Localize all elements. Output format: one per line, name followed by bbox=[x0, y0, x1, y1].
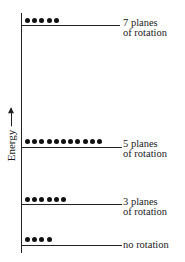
particle-dot bbox=[39, 139, 44, 144]
particle-dot bbox=[32, 139, 37, 144]
particle-dot bbox=[54, 139, 59, 144]
label-3-planes: 3 planes of rotation bbox=[123, 197, 167, 217]
particle-dot bbox=[25, 237, 30, 242]
particle-dot bbox=[90, 139, 95, 144]
label-no-rotation: no rotation bbox=[123, 240, 169, 250]
energy-axis-label: Energy bbox=[5, 109, 17, 162]
energy-level-line-7-planes bbox=[21, 25, 120, 26]
energy-label-text: Energy bbox=[5, 130, 17, 162]
particle-dot bbox=[32, 197, 37, 202]
label-line1: no rotation bbox=[123, 240, 169, 250]
particle-dot bbox=[47, 18, 52, 23]
label-5-planes: 5 planes of rotation bbox=[123, 139, 167, 159]
particle-dot bbox=[39, 197, 44, 202]
dots-5-planes bbox=[25, 139, 102, 144]
label-7-planes: 7 planes of rotation bbox=[123, 18, 167, 38]
dots-7-planes bbox=[25, 18, 59, 23]
label-line2: of rotation bbox=[123, 149, 167, 159]
particle-dot bbox=[61, 139, 66, 144]
dots-no-rotation bbox=[25, 237, 52, 242]
particle-dot bbox=[25, 18, 30, 23]
particle-dot bbox=[39, 18, 44, 23]
dots-3-planes bbox=[25, 197, 66, 202]
particle-dot bbox=[97, 139, 102, 144]
particle-dot bbox=[54, 197, 59, 202]
particle-dot bbox=[47, 139, 52, 144]
energy-level-line-no-rotation bbox=[21, 245, 122, 246]
particle-dot bbox=[54, 18, 59, 23]
particle-dot bbox=[83, 139, 88, 144]
particle-dot bbox=[32, 18, 37, 23]
particle-dot bbox=[39, 237, 44, 242]
energy-level-line-5-planes bbox=[21, 147, 122, 148]
energy-axis bbox=[21, 13, 22, 253]
particle-dot bbox=[75, 139, 80, 144]
label-line2: of rotation bbox=[123, 28, 167, 38]
particle-dot bbox=[25, 197, 30, 202]
particle-dot bbox=[61, 197, 66, 202]
particle-dot bbox=[68, 139, 73, 144]
energy-level-line-3-planes bbox=[21, 204, 122, 205]
label-line2: of rotation bbox=[123, 207, 167, 217]
particle-dot bbox=[25, 139, 30, 144]
particle-dot bbox=[32, 237, 37, 242]
particle-dot bbox=[47, 197, 52, 202]
particle-dot bbox=[47, 237, 52, 242]
up-arrow-icon bbox=[11, 109, 12, 127]
